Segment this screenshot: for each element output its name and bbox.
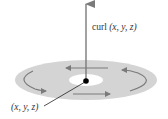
curl-label: curl (x, y, z) xyxy=(92,22,137,33)
curl-diagram: curl (x, y, z) (x, y, z) xyxy=(0,0,168,119)
point-xyz xyxy=(83,78,89,84)
point-label: (x, y, z) xyxy=(11,102,38,113)
